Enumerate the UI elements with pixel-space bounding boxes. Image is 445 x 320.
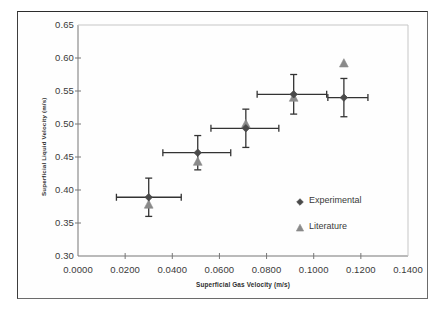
- y-tick-label: 0.50: [44, 118, 74, 129]
- y-axis-title: Superficial Liquid Velocity (m/s): [40, 98, 47, 196]
- x-tick-label: 0.0600: [193, 264, 245, 275]
- y-tick-label: 0.45: [44, 151, 74, 162]
- x-tick-label: 0.0800: [241, 264, 293, 275]
- legend-item-label: Experimental: [309, 195, 362, 205]
- x-tick-label: 0.0200: [99, 264, 151, 275]
- x-tick-label: 0.1000: [288, 264, 340, 275]
- y-tick-label: 0.30: [44, 250, 74, 261]
- legend-item-label: Literature: [309, 221, 347, 231]
- x-tick-label: 0.1400: [382, 264, 434, 275]
- y-tick-label: 0.40: [44, 184, 74, 195]
- x-tick-label: 0.0400: [146, 264, 198, 275]
- y-tick-label: 0.35: [44, 217, 74, 228]
- plot-area-frame: [78, 25, 408, 256]
- x-tick-label: 0.1200: [335, 264, 387, 275]
- y-tick-label: 0.60: [44, 52, 74, 63]
- figure-container: 0.300.350.400.450.500.550.600.65 0.00000…: [0, 0, 445, 320]
- y-tick-label: 0.65: [44, 19, 74, 30]
- x-tick-label: 0.0000: [52, 264, 104, 275]
- legend-markers: [296, 199, 303, 231]
- x-axis-title: Superficial Gas Velocity (m/s): [185, 281, 301, 288]
- y-tick-label: 0.55: [44, 85, 74, 96]
